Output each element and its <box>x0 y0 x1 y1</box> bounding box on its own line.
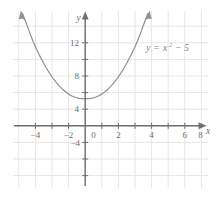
y-tick-label-8: 8 <box>75 71 80 81</box>
plot-background <box>13 11 208 188</box>
x-tick-label-8: 8 <box>198 130 203 140</box>
x-tick-label-zero: 0 <box>91 130 96 140</box>
equation-base: x <box>162 42 168 53</box>
coordinate-plane-svg: −4 −2 0 2 4 6 8 12 8 4 −4 y x y = x 2 − … <box>0 0 221 200</box>
y-tick-label-4: 4 <box>75 104 80 114</box>
y-tick-label-12: 12 <box>70 38 79 48</box>
equation-constant: 5 <box>184 42 189 53</box>
x-axis-name-label: x <box>205 126 211 136</box>
graph-figure: −4 −2 0 2 4 6 8 12 8 4 −4 y x y = x 2 − … <box>0 0 221 200</box>
equation-minus: − <box>175 42 182 53</box>
equation-equals: = <box>153 42 160 53</box>
x-tick-label-minus4: −4 <box>31 130 41 140</box>
x-tick-label-2: 2 <box>116 130 121 140</box>
equation-lhs: y <box>145 42 151 53</box>
x-tick-label-4: 4 <box>149 130 154 140</box>
y-axis-name-label: y <box>75 13 81 23</box>
y-tick-label-minus4: −4 <box>70 138 80 148</box>
x-tick-label-6: 6 <box>183 130 188 140</box>
